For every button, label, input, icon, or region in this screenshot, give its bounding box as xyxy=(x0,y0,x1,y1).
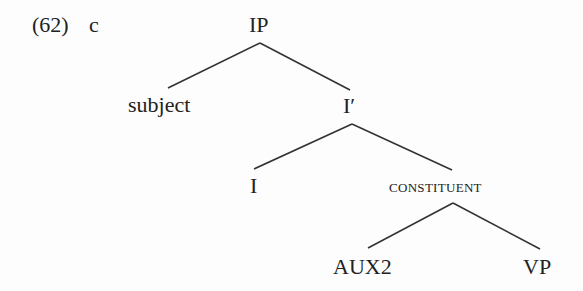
node-constituent: CONSTITUENT xyxy=(389,181,482,194)
branch-ip-subject xyxy=(168,43,260,88)
node-subject: subject xyxy=(128,94,190,116)
example-number: (62) xyxy=(32,14,69,36)
branch-ip-ibar xyxy=(260,43,350,90)
branch-ibar-constituent xyxy=(352,124,452,170)
example-sublabel: c xyxy=(89,14,99,36)
node-aux2: AUX2 xyxy=(333,256,392,278)
node-i-bar: I′ xyxy=(343,95,355,117)
branch-constituent-vp xyxy=(453,203,540,249)
tree-branches xyxy=(0,0,583,291)
node-vp: VP xyxy=(523,256,551,278)
branch-constituent-aux2 xyxy=(368,203,453,248)
branch-ibar-i xyxy=(254,124,352,169)
node-i: I xyxy=(250,175,257,197)
node-ip: IP xyxy=(249,14,269,36)
